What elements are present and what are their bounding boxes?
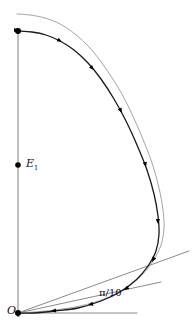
angle-label: π/10 xyxy=(99,288,122,298)
focus-label: E1 xyxy=(26,158,38,172)
apex-point xyxy=(15,28,21,34)
arrow-marker xyxy=(156,219,160,224)
arrow-marker xyxy=(57,38,63,44)
focus-point xyxy=(15,162,21,168)
steep-ray xyxy=(18,251,189,313)
arrow-marker xyxy=(51,308,56,313)
origin-label: O1 xyxy=(7,305,20,319)
figure-canvas: O1 E1 π/10 xyxy=(0,0,193,332)
arrow-marker xyxy=(118,108,124,114)
trajectory-curve xyxy=(18,31,159,313)
angle-rays-group xyxy=(18,251,189,313)
